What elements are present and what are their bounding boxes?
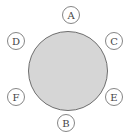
seat-label: F (13, 92, 20, 103)
seat-d: D (8, 33, 25, 50)
seat-label: C (110, 36, 118, 47)
seat-c: C (106, 33, 123, 50)
seat-e: E (106, 89, 123, 106)
seat-label: D (12, 36, 20, 47)
round-table (29, 32, 108, 111)
seating-diagram: A D C F E B (0, 0, 133, 140)
seat-label: B (62, 118, 69, 129)
seat-f: F (8, 89, 25, 106)
seat-label: A (66, 10, 75, 21)
seat-label: E (110, 92, 117, 103)
seat-a: A (63, 7, 80, 24)
seat-b: B (58, 115, 75, 132)
